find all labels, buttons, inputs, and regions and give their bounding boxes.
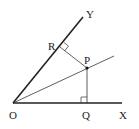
bisector-op [13, 56, 114, 103]
ray-oy [13, 17, 83, 103]
right-angle-mark-q [81, 97, 87, 103]
geometry-diagram: O X Y R P Q [0, 0, 139, 129]
label-r: R [48, 40, 56, 52]
label-y: Y [86, 8, 94, 20]
label-q: Q [82, 109, 90, 121]
point-p-dot [85, 66, 88, 69]
label-o: O [9, 109, 17, 121]
right-angle-mark-r [64, 42, 69, 50]
label-x: X [119, 109, 127, 121]
perpendicular-pr [60, 47, 87, 68]
label-p: P [84, 54, 90, 66]
